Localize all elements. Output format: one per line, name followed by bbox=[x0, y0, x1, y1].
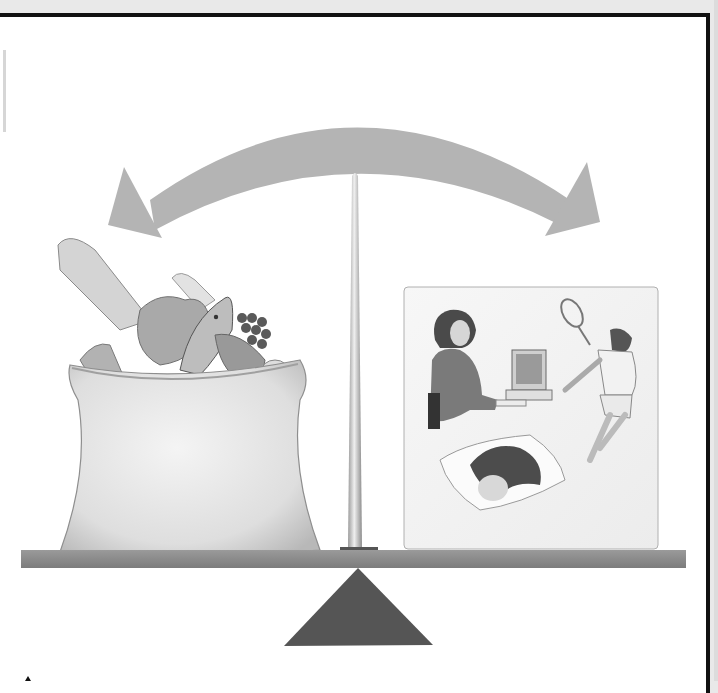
balance-beam bbox=[21, 550, 686, 568]
balance-post bbox=[340, 173, 378, 552]
food-sack bbox=[58, 239, 320, 556]
activities-panel bbox=[404, 287, 658, 549]
fulcrum-triangle bbox=[284, 568, 433, 646]
caption-marker-icon bbox=[25, 676, 31, 681]
